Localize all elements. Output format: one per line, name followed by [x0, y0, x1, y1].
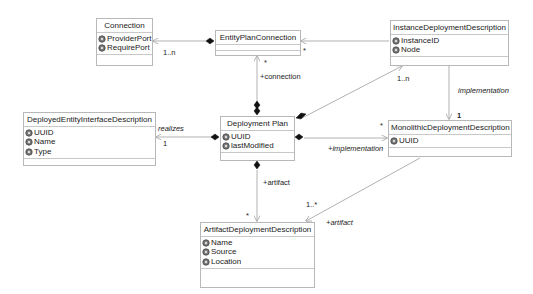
multiplicity-label: * [246, 211, 249, 220]
attribute-icon [25, 148, 33, 156]
attribute-name: lastModified [231, 141, 274, 151]
attribute-icon [202, 258, 210, 266]
attribute-icon [98, 35, 106, 43]
class-operations [216, 51, 300, 54]
class-connection[interactable]: Connection ProviderPort RequirePort [96, 18, 153, 66]
multiplicity-label: 1..n [397, 74, 410, 83]
class-operations [201, 269, 314, 283]
edge-mdd-artifact [306, 158, 420, 221]
attribute-name: UUID [399, 136, 419, 146]
attribute-name: Name [211, 238, 232, 248]
class-attributes: InstanceID Node [391, 35, 508, 57]
role-label: realizes [158, 124, 184, 133]
attribute-icon [25, 129, 33, 137]
multiplicity-label: * [380, 121, 383, 130]
class-entity-plan-connection[interactable]: EntityPlanConnection [215, 30, 301, 56]
attribute-icon [390, 137, 398, 145]
class-title: InstanceDeploymentDescription [391, 21, 508, 35]
attribute: UUID [222, 132, 293, 142]
multiplicity-label: 1..* [306, 200, 317, 209]
class-artifact-deployment-description[interactable]: ArtifactDeploymentDescription Name Sourc… [200, 222, 315, 288]
attribute: UUID [390, 136, 510, 146]
attribute-name: UUID [231, 132, 251, 142]
multiplicity-label: * [303, 46, 306, 55]
attribute-name: InstanceID [401, 36, 439, 46]
composition-diamond-icon [206, 38, 214, 44]
class-title: MonolithicDeploymentDescription [389, 121, 511, 135]
class-title: DeployedEntityInterfaceDescription [24, 113, 155, 127]
class-title: Connection [97, 19, 152, 33]
composition-diamond-icon [254, 107, 260, 115]
attribute: lastModified [222, 142, 293, 152]
class-instance-deployment-description[interactable]: InstanceDeploymentDescription InstanceID… [390, 20, 509, 66]
attribute: Location [202, 257, 313, 267]
class-attributes: Name Source Location [201, 237, 314, 269]
attribute-name: Source [211, 247, 236, 257]
class-operations [221, 153, 294, 159]
role-label: +artifact [326, 218, 353, 227]
class-operations [97, 55, 152, 61]
attribute-icon [222, 133, 230, 141]
attribute-name: RequirePort [107, 43, 150, 53]
attribute: RequirePort [98, 44, 151, 54]
class-operations [24, 159, 155, 165]
class-deployed-entity-interface-description[interactable]: DeployedEntityInterfaceDescription UUID … [23, 112, 156, 166]
class-attributes: UUID Name Type [24, 127, 155, 159]
class-operations [389, 148, 511, 154]
class-monolithic-deployment-description[interactable]: MonolithicDeploymentDescription UUID [388, 120, 512, 157]
attribute: ProviderPort [98, 34, 151, 44]
edge-dp-idd [302, 66, 402, 118]
class-attributes: UUID lastModified [221, 131, 294, 153]
attribute-name: Name [34, 137, 55, 147]
class-title: Deployment Plan [221, 117, 294, 131]
attribute-name: Location [211, 257, 241, 267]
attribute-icon [202, 239, 210, 247]
class-attributes: UUID [389, 135, 511, 148]
composition-diamond-icon [254, 161, 260, 169]
attribute: Name [202, 238, 313, 248]
attribute-icon [392, 46, 400, 54]
class-title: EntityPlanConnection [216, 31, 300, 45]
attribute: Name [25, 138, 154, 148]
role-label: implementation [458, 86, 509, 95]
attribute-icon [98, 44, 106, 52]
composition-diamond-icon [295, 134, 303, 140]
multiplicity-label: 1..n [163, 48, 176, 57]
class-operations [391, 57, 508, 63]
class-title: ArtifactDeploymentDescription [201, 223, 314, 237]
attribute-icon [202, 248, 210, 256]
attribute-name: Node [401, 45, 420, 55]
attribute-icon [392, 37, 400, 45]
composition-diamond-icon [296, 113, 306, 119]
multiplicity-label: 1 [163, 139, 167, 148]
multiplicity-label: 1 [457, 111, 461, 120]
attribute-icon [222, 142, 230, 150]
attribute: Node [392, 46, 507, 56]
attribute: InstanceID [392, 36, 507, 46]
attribute-name: ProviderPort [107, 34, 151, 44]
class-deployment-plan[interactable]: Deployment Plan UUID lastModified [220, 116, 295, 161]
role-label: +implementation [328, 144, 383, 153]
attribute-icon [25, 138, 33, 146]
class-attributes: ProviderPort RequirePort [97, 33, 152, 55]
attribute-name: UUID [34, 128, 54, 138]
role-label: +artifact [263, 178, 290, 187]
composition-diamond-icon [211, 134, 219, 140]
attribute: Type [25, 147, 154, 157]
attribute: UUID [25, 128, 154, 138]
role-label: +connection [260, 72, 301, 81]
attribute: Source [202, 248, 313, 258]
attribute-name: Type [34, 147, 51, 157]
multiplicity-label: * [264, 58, 267, 67]
